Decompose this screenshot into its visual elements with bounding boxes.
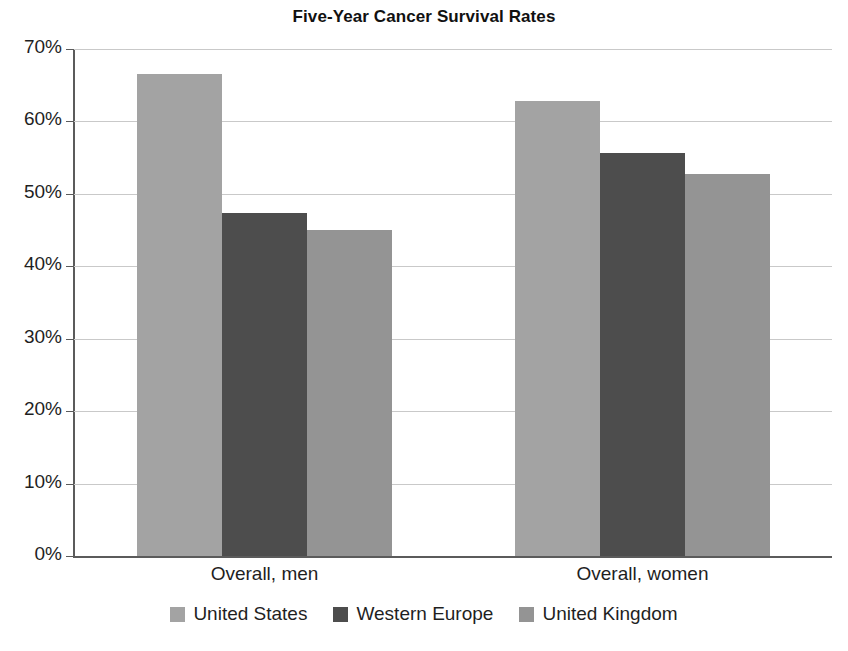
- y-axis-tick-label: 20%: [0, 398, 62, 420]
- y-axis-tick-label: 10%: [0, 471, 62, 493]
- bar: [600, 153, 685, 556]
- legend-item[interactable]: United Kingdom: [519, 603, 677, 625]
- legend-label: Western Europe: [356, 603, 493, 625]
- y-axis-tick-label: 60%: [0, 108, 62, 130]
- y-axis-tick-label: 0%: [0, 543, 62, 565]
- x-axis-category-label: Overall, men: [137, 563, 392, 585]
- legend-swatch-icon: [170, 607, 185, 622]
- legend-swatch-icon: [519, 607, 534, 622]
- bar: [515, 101, 600, 556]
- y-axis-tick: [66, 194, 74, 195]
- y-axis-tick-label: 70%: [0, 36, 62, 58]
- y-axis-tick: [66, 266, 74, 267]
- legend-item[interactable]: Western Europe: [333, 603, 493, 625]
- y-axis-tick-label: 50%: [0, 181, 62, 203]
- legend-swatch-icon: [333, 607, 348, 622]
- bar: [222, 213, 307, 556]
- gridline: [74, 49, 832, 50]
- y-axis-tick-label: 30%: [0, 326, 62, 348]
- legend-label: United States: [193, 603, 307, 625]
- y-axis-tick-label: 40%: [0, 253, 62, 275]
- x-axis-baseline: [74, 556, 832, 558]
- x-axis-category-label: Overall, women: [515, 563, 770, 585]
- bar-chart: Five-Year Cancer Survival Rates 0%10%20%…: [0, 0, 848, 651]
- y-axis-tick: [66, 121, 74, 122]
- bar: [137, 74, 222, 556]
- y-axis-tick: [66, 556, 74, 557]
- y-axis-tick: [66, 339, 74, 340]
- chart-title: Five-Year Cancer Survival Rates: [0, 7, 848, 27]
- y-axis-tick: [66, 411, 74, 412]
- bar: [685, 174, 770, 556]
- y-axis-tick: [66, 484, 74, 485]
- plot-area: [74, 49, 832, 556]
- chart-legend: United StatesWestern EuropeUnited Kingdo…: [0, 603, 848, 625]
- bar: [307, 230, 392, 556]
- legend-item[interactable]: United States: [170, 603, 307, 625]
- y-axis-tick: [66, 49, 74, 50]
- legend-label: United Kingdom: [542, 603, 677, 625]
